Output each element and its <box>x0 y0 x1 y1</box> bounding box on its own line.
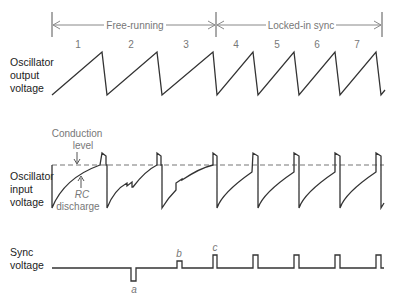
rc-label: RC <box>75 189 90 200</box>
svg-text:voltage: voltage <box>10 196 44 208</box>
conduction-arrow-icon <box>74 152 80 164</box>
pulse-c-label: c <box>213 242 218 253</box>
sync-waveform <box>52 255 384 281</box>
oscillator-sync-diagram: Free-running Locked-in sync 1 2 3 4 5 6 … <box>0 0 400 302</box>
rc-discharge-label: discharge <box>56 201 100 212</box>
conduction-level-label: level <box>73 140 94 151</box>
svg-text:input: input <box>10 183 33 195</box>
conduction-label: Conduction <box>52 128 103 139</box>
svg-text:Oscillator: Oscillator <box>10 170 54 182</box>
cycle-numbers: 1 2 3 4 5 6 7 <box>75 39 360 50</box>
output-sawtooth-waveform <box>52 52 385 95</box>
locked-in-sync-label: Locked-in sync <box>268 20 335 31</box>
cycle-3: 3 <box>183 39 189 50</box>
cycle-4: 4 <box>233 39 239 50</box>
row-label-input: Oscillator input voltage <box>10 170 54 208</box>
svg-text:Sync: Sync <box>10 246 33 258</box>
pulse-b-label: b <box>176 248 182 259</box>
pulse-a-label: a <box>131 284 137 295</box>
cycle-7: 7 <box>354 39 360 50</box>
cycle-2: 2 <box>128 39 134 50</box>
cycle-5: 5 <box>274 39 280 50</box>
cycle-1: 1 <box>75 39 81 50</box>
svg-text:Oscillator: Oscillator <box>10 56 54 68</box>
svg-text:output: output <box>10 69 39 81</box>
cycle-6: 6 <box>314 39 320 50</box>
rc-arrow-icon <box>78 176 84 188</box>
row-label-sync: Sync voltage <box>10 246 44 271</box>
row-label-output: Oscillator output voltage <box>10 56 54 94</box>
svg-text:voltage: voltage <box>10 259 44 271</box>
svg-text:voltage: voltage <box>10 82 44 94</box>
free-running-label: Free-running <box>106 20 163 31</box>
input-waveform <box>52 153 384 208</box>
